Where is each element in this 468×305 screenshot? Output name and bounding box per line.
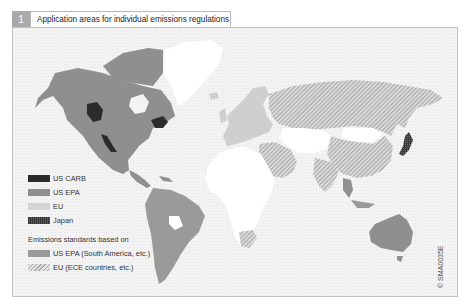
legend-swatch-us-carb <box>28 175 50 182</box>
legend-label: US EPA <box>53 188 80 197</box>
legend-swatch-us-epa <box>28 189 50 196</box>
legend-swatch-based-on-us-epa <box>28 250 50 257</box>
legend-label: US CARB <box>53 174 86 183</box>
legend-swatch-eu <box>28 203 50 210</box>
figure-title: Application areas for individual emissio… <box>30 11 231 28</box>
legend-swatch-based-on-eu <box>28 264 50 271</box>
legend-swatch-japan <box>28 217 50 224</box>
copyright-icon: © <box>437 283 444 288</box>
figure-credit: © SMA0035E <box>437 245 444 288</box>
legend-label: EU (ECE countries, etc.) <box>53 263 134 272</box>
legend-label: EU <box>53 202 63 211</box>
credit-code: SMA0035E <box>437 245 444 280</box>
legend-heading: Emissions standards based on <box>28 235 129 244</box>
legend-label: Japan <box>53 216 73 225</box>
legend-label: US EPA (South America, etc.) <box>53 249 150 258</box>
figure-number: 1 <box>12 11 30 28</box>
